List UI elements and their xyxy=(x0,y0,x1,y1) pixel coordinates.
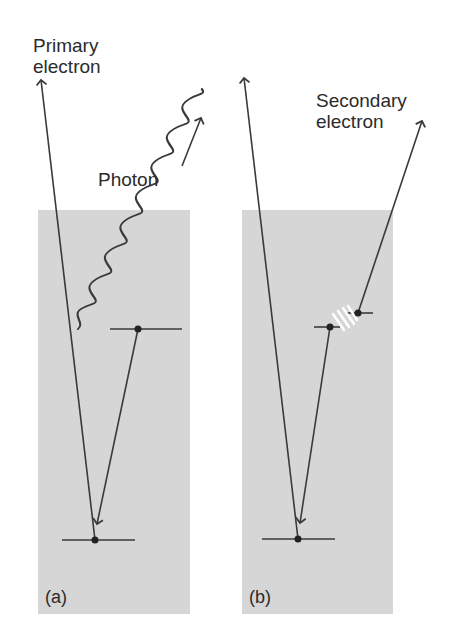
panel-a-inner-electron-dot xyxy=(92,537,99,544)
primary-electron-label-line1: Primary xyxy=(33,35,101,56)
secondary-electron-label-line2: electron xyxy=(316,111,407,132)
secondary-electron-label-line1: Secondary xyxy=(316,90,407,111)
panel-b-inner-electron-dot xyxy=(295,536,302,543)
panel-b-outer-electron-dot-1 xyxy=(327,324,334,331)
panel-a-background xyxy=(38,210,190,614)
secondary-electron-label: Secondary electron xyxy=(316,90,407,132)
panel-b-outer-electron-dot-2 xyxy=(355,310,362,317)
panel-b-label: (b) xyxy=(249,587,271,608)
primary-electron-label-line2: electron xyxy=(33,56,101,77)
primary-electron-label: Primary electron xyxy=(33,35,101,77)
photon-label: Photon xyxy=(98,169,158,190)
panel-a-label: (a) xyxy=(45,587,67,608)
panel-a-outer-electron-dot xyxy=(135,326,142,333)
